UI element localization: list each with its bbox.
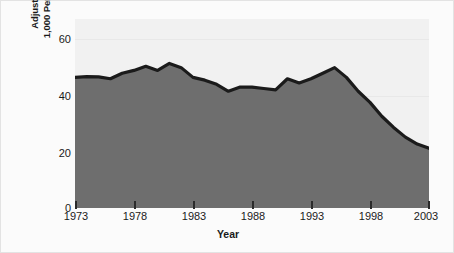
x-axis-title: Year xyxy=(1,228,454,240)
x-tick-label-1988: 1988 xyxy=(241,211,265,222)
x-tick-mark-1983 xyxy=(193,201,195,209)
x-tick-mark-1998 xyxy=(370,201,372,209)
x-tick-mark-1973 xyxy=(75,201,77,209)
x-tick-label-1993: 1993 xyxy=(300,211,324,222)
x-tick-mark-1978 xyxy=(134,201,136,209)
x-tick-mark-1988 xyxy=(252,201,254,209)
x-tick-label-2003: 2003 xyxy=(414,211,438,222)
chart-figure: Adjusted Victimization Rate per 1,000 Pe… xyxy=(0,0,454,253)
x-tick-mark-2003 xyxy=(428,201,430,209)
x-tick-label-1973: 1973 xyxy=(64,211,88,222)
x-tick-mark-1993 xyxy=(311,201,313,209)
x-tick-label-1983: 1983 xyxy=(182,211,206,222)
x-tick-label-1978: 1978 xyxy=(123,211,147,222)
x-axis-ticks: 1973 1978 1983 1988 1993 1998 2003 xyxy=(1,1,454,253)
x-tick-label-1998: 1998 xyxy=(359,211,383,222)
